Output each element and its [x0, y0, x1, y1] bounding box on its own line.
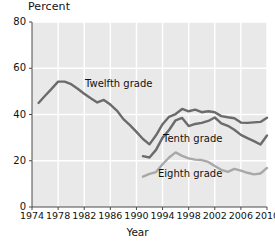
y-tick-label: 20 — [2, 156, 26, 166]
axis-tick-marks — [29, 22, 267, 210]
series-lines — [39, 82, 267, 177]
gridlines — [32, 22, 267, 207]
line-chart: Percent 806040200 1974197819821986199019… — [0, 0, 275, 242]
x-axis-title: Year — [0, 226, 275, 238]
series-label-twelfth-grade: Twelfth grade — [85, 78, 152, 89]
y-tick-label: 80 — [2, 17, 26, 27]
y-tick-label: 40 — [2, 110, 26, 120]
y-tick-label: 60 — [2, 63, 26, 73]
x-tick-label: 2010 — [252, 211, 275, 221]
plot-canvas — [0, 0, 275, 242]
series-label-tenth-grade: Tenth grade — [163, 133, 222, 144]
series-label-eighth-grade: Eighth grade — [158, 168, 222, 179]
